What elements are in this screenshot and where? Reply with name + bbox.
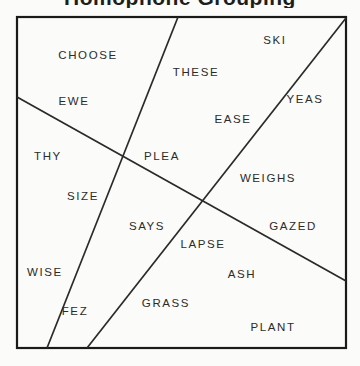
word-label: LAPSE — [180, 238, 225, 250]
word-label: SIZE — [67, 190, 99, 202]
word-label: SKI — [263, 34, 286, 46]
word-label: GRASS — [142, 297, 190, 309]
word-label: PLANT — [250, 321, 295, 333]
word-label: GAZED — [269, 220, 317, 232]
word-label: CHOOSE — [58, 49, 117, 61]
word-label: SAYS — [129, 220, 165, 232]
diagram-canvas: Homophone Grouping CHOOSESKITHESEEWEYEAS… — [0, 0, 360, 366]
word-label: THESE — [173, 66, 219, 78]
word-label: WEIGHS — [240, 172, 296, 184]
word-label: YEAS — [286, 93, 323, 105]
word-label: EASE — [214, 113, 251, 125]
word-region-diagram — [0, 0, 360, 366]
word-label: THY — [34, 150, 62, 162]
word-label: ASH — [228, 268, 256, 280]
word-label: FEZ — [62, 305, 89, 317]
word-label: EWE — [59, 95, 90, 107]
word-label: WISE — [27, 266, 63, 278]
word-label: PLEA — [144, 150, 180, 162]
